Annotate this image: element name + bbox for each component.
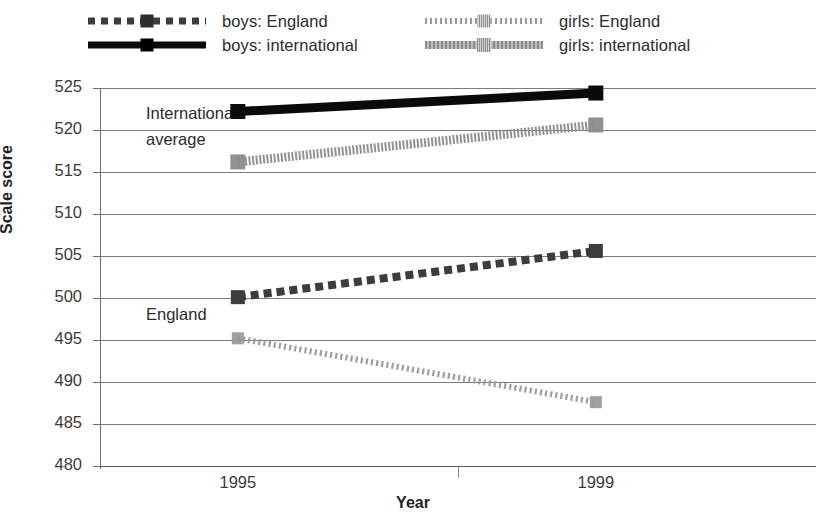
series-boys-international (230, 86, 603, 119)
series-line (238, 338, 596, 402)
data-point-marker (588, 86, 603, 101)
series-girls-international (230, 117, 603, 169)
data-point-marker (588, 117, 603, 132)
data-point-marker (230, 104, 245, 119)
series-line (238, 93, 596, 111)
series-line (238, 125, 596, 162)
data-point-marker (230, 154, 245, 169)
line-chart: boys: England boys: international girls:… (0, 0, 826, 515)
series-boys-england (231, 244, 603, 304)
data-point-marker (589, 244, 603, 258)
data-point-marker (231, 290, 245, 304)
data-point-marker (232, 332, 244, 344)
data-point-marker (590, 396, 602, 408)
series-girls-england (232, 332, 602, 408)
chart-series-layer (0, 0, 826, 515)
series-line (238, 251, 596, 297)
